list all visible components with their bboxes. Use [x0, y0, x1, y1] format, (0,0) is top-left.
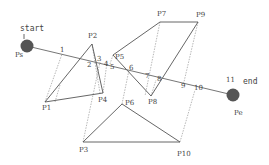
p9-label: P9 [196, 11, 205, 19]
p5-label: P5 [115, 53, 124, 61]
intersection-5: 5 [110, 63, 114, 71]
intersection-11: 11 [226, 76, 235, 84]
intersection-8: 8 [157, 75, 161, 83]
p6-label: P6 [125, 99, 135, 107]
intersection-1: 1 [60, 46, 64, 54]
intersection-9: 9 [181, 82, 185, 90]
p3-label: P3 [79, 146, 88, 154]
p7-label: P7 [157, 10, 166, 18]
p1-label: P1 [42, 104, 51, 112]
pe-label: Pe [234, 109, 243, 117]
p4-label: P4 [98, 96, 108, 104]
p2-label: P2 [88, 32, 97, 40]
end-point-circle [227, 89, 240, 102]
p8-label: P8 [148, 98, 157, 106]
end-label: end [243, 77, 258, 86]
path-planning-diagram: start Ps end Pe P2 P1 P4 P5 P7 P9 P8 P6 … [0, 0, 269, 165]
projection-lines [45, 22, 198, 142]
intersection-10: 10 [194, 84, 203, 92]
p10-label: P10 [177, 150, 191, 158]
start-label: start [20, 24, 44, 33]
intersection-6: 6 [129, 64, 134, 72]
intersection-7: 7 [145, 72, 149, 80]
intersection-4: 4 [104, 60, 109, 68]
intersection-2: 2 [87, 61, 91, 69]
intersection-3: 3 [97, 55, 101, 63]
obstacle-triangle-p3-p6-p10 [83, 104, 180, 142]
ps-label: Ps [15, 51, 24, 59]
